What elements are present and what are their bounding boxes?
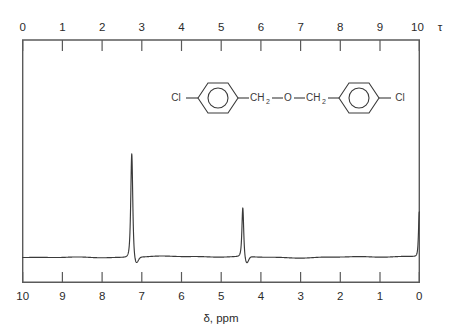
- plot-frame: [22, 40, 420, 283]
- spectrum-trace: [23, 154, 420, 263]
- structure-right-ch2-label: CH: [306, 92, 320, 103]
- top-tick-label-2: 2: [99, 21, 105, 33]
- bottom-tick-label-6: 6: [178, 290, 184, 302]
- structure-left-aromatic-circle: [208, 88, 228, 108]
- top-axis-labels: 0 1 2 3 4 5 6 7 8 9 10 τ: [19, 21, 442, 33]
- bottom-tick-label-7: 7: [139, 290, 145, 302]
- top-tick-label-9: 9: [377, 21, 383, 33]
- top-tick-label-4: 4: [178, 21, 185, 33]
- nmr-spectrum-figure: 0 1 2 3 4 5 6 7 8 9 10 τ: [0, 0, 456, 333]
- spectrum-canvas: 0 1 2 3 4 5 6 7 8 9 10 τ: [0, 0, 456, 333]
- structure-oxygen-label: O: [284, 92, 292, 103]
- bottom-tick-label-4: 4: [258, 290, 265, 302]
- structure-right-aromatic-circle: [349, 88, 369, 108]
- top-tick-label-3: 3: [139, 21, 145, 33]
- structure-left-ch2-subscript: 2: [266, 98, 270, 105]
- structure-left-chlorine-label: Cl: [171, 92, 180, 103]
- top-tick-label-6: 6: [258, 21, 264, 33]
- top-tick-label-7: 7: [297, 21, 303, 33]
- bottom-tick-label-9: 9: [59, 290, 65, 302]
- top-tick-label-8: 8: [337, 21, 343, 33]
- top-axis-name: τ: [438, 21, 443, 33]
- top-tick-label-0: 0: [19, 21, 25, 33]
- bottom-tick-label-5: 5: [218, 290, 224, 302]
- top-axis-ticks: [23, 40, 420, 51]
- structure-right-chlorine-label: Cl: [395, 92, 404, 103]
- bottom-tick-label-2: 2: [337, 290, 343, 302]
- bottom-tick-label-1: 1: [377, 290, 383, 302]
- nmr-trace-line: [23, 154, 420, 263]
- bottom-axis-labels: 10 9 8 7 6 5 4 3 2 1 0 δ, ppm: [16, 290, 422, 324]
- bottom-axis-caption: δ, ppm: [203, 312, 238, 324]
- molecular-structure-diagram: Cl CH 2 O CH 2: [171, 83, 404, 113]
- structure-left-ch2-label: CH: [250, 92, 264, 103]
- top-tick-label-5: 5: [218, 21, 224, 33]
- top-tick-label-1: 1: [59, 21, 65, 33]
- top-tick-label-10: 10: [411, 21, 424, 33]
- bottom-tick-label-10: 10: [16, 290, 29, 302]
- bottom-tick-label-3: 3: [297, 290, 303, 302]
- bottom-tick-label-8: 8: [99, 290, 105, 302]
- structure-right-ch2-subscript: 2: [322, 98, 326, 105]
- bottom-axis-ticks: [23, 272, 420, 282]
- bottom-tick-label-0: 0: [416, 290, 422, 302]
